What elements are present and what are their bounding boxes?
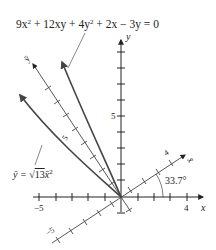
ybar-tick-neg5: −5 — [44, 225, 56, 237]
curve-label-leader-line — [35, 145, 42, 165]
y-axis-label: y — [125, 31, 131, 42]
x-axis-label: x — [200, 202, 206, 213]
x-tick-4: 4 — [184, 203, 189, 213]
x-tick-neg5: −5 — [34, 203, 44, 213]
y-tick-5: 5 — [111, 111, 116, 121]
rotated-parabola-diagram: 9x2 + 12xy + 4y2 + 2x − 3y = 0 5 y −5 4 … — [0, 0, 216, 250]
ybar-axis: 5 ȳ — [21, 53, 132, 212]
angle-arc — [156, 174, 163, 197]
angle-label: 33.7° — [165, 175, 187, 186]
curve-label: ȳ = √13x̄2 — [12, 168, 53, 180]
equation-label: 9x2 + 12xy + 4y2 + 2x − 3y = 0 — [16, 18, 159, 31]
xbar-axis-label: x̄ — [185, 155, 196, 165]
xbar-tick-4: 4 — [162, 148, 170, 158]
equation-leader-line — [68, 33, 85, 68]
ybar-axis-label: ȳ — [21, 53, 33, 64]
